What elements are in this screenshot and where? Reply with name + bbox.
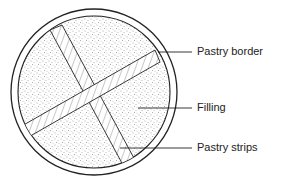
label-pastry-border: Pastry border bbox=[197, 45, 263, 57]
label-filling: Filling bbox=[197, 101, 226, 113]
label-pastry-strips: Pastry strips bbox=[197, 141, 258, 153]
pie-diagram bbox=[0, 0, 282, 187]
